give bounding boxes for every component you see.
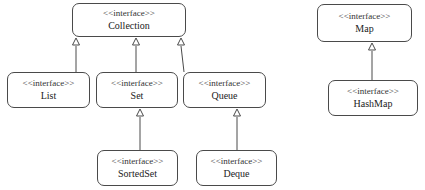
class-name: HashMap — [354, 97, 393, 110]
node-list: <<interface>> List — [7, 72, 90, 108]
arrowhead-icon — [73, 38, 80, 45]
stereotype-label: <<interface>> — [347, 86, 399, 97]
arrowhead-icon — [133, 38, 140, 45]
stereotype-label: <<interface>> — [112, 156, 164, 167]
stereotype-label: <<interface>> — [211, 156, 263, 167]
node-sortedset: <<interface>> SortedSet — [97, 150, 178, 186]
class-name: Map — [355, 22, 373, 35]
stereotype-label: <<interface>> — [111, 78, 163, 89]
node-map: <<interface>> Map — [317, 4, 412, 42]
arrowhead-icon — [234, 109, 241, 116]
class-name: Queue — [211, 89, 237, 102]
arrowhead-icon — [178, 38, 185, 45]
stereotype-label: <<interface>> — [199, 78, 251, 89]
class-name: List — [41, 89, 57, 102]
arrowhead-icon — [137, 109, 144, 116]
edge-queue-collection — [181, 46, 184, 72]
stereotype-label: <<interface>> — [23, 78, 75, 89]
node-collection: <<interface>> Collection — [72, 3, 186, 37]
class-name: SortedSet — [118, 167, 157, 180]
class-name: Deque — [223, 167, 249, 180]
node-deque: <<interface>> Deque — [196, 150, 277, 186]
node-hashmap: <<interface>> HashMap — [328, 80, 418, 116]
node-set: <<interface>> Set — [96, 72, 178, 108]
class-name: Collection — [108, 19, 150, 32]
arrowhead-icon — [369, 43, 376, 50]
class-name: Set — [131, 89, 144, 102]
stereotype-label: <<interface>> — [103, 8, 155, 19]
stereotype-label: <<interface>> — [339, 11, 391, 22]
node-queue: <<interface>> Queue — [183, 72, 266, 108]
